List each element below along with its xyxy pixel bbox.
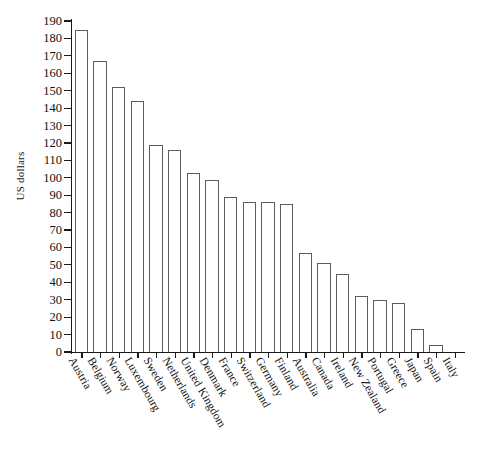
y-axis-title: US dollars (10, 0, 30, 352)
y-axis-tick-label: 90 (32, 189, 62, 202)
y-axis-tick-label: 160 (32, 67, 62, 80)
bar (373, 300, 386, 352)
bar (429, 345, 442, 352)
bar (336, 274, 349, 352)
bar (187, 173, 200, 352)
bar (149, 145, 162, 352)
y-axis-tick-label: 120 (32, 137, 62, 150)
bar (131, 101, 144, 352)
y-axis-tick-label: 10 (32, 328, 62, 341)
bar (299, 253, 312, 352)
x-axis-tick-labels: AustriaBelgiumNorwayLuxembourgSwedenNeth… (0, 355, 487, 464)
y-axis-tick-label: 100 (32, 172, 62, 185)
y-axis-tick-label: 30 (32, 293, 62, 306)
bar (317, 263, 330, 352)
y-axis-tick-label: 170 (32, 50, 62, 63)
y-axis-tick-label: 70 (32, 224, 62, 237)
y-axis-tick-label: 140 (32, 102, 62, 115)
bar (280, 204, 293, 352)
bar (355, 296, 368, 352)
y-axis-tick-label: 50 (32, 259, 62, 272)
bar-series (72, 21, 464, 352)
y-axis-tick-label: 190 (32, 15, 62, 28)
bar (168, 150, 181, 352)
y-axis-tick-label: 110 (32, 154, 62, 167)
bar-chart: US dollars 01020304050607080901001101201… (0, 0, 487, 464)
y-axis-tick-label: 180 (32, 32, 62, 45)
y-axis-tick-label: 40 (32, 276, 62, 289)
bar (205, 180, 218, 352)
bar (93, 61, 106, 352)
bar (261, 202, 274, 352)
bar (411, 329, 424, 352)
y-axis-tick-label: 60 (32, 241, 62, 254)
y-axis-tick-label: 130 (32, 119, 62, 132)
bar (224, 197, 237, 352)
bar (75, 30, 88, 352)
bar (392, 303, 405, 352)
y-axis-tick-label: 20 (32, 311, 62, 324)
bar (243, 202, 256, 352)
y-axis-title-text: US dollars (14, 152, 26, 201)
y-axis-tick-label: 80 (32, 206, 62, 219)
y-axis-tick-label: 150 (32, 84, 62, 97)
bar (112, 87, 125, 352)
